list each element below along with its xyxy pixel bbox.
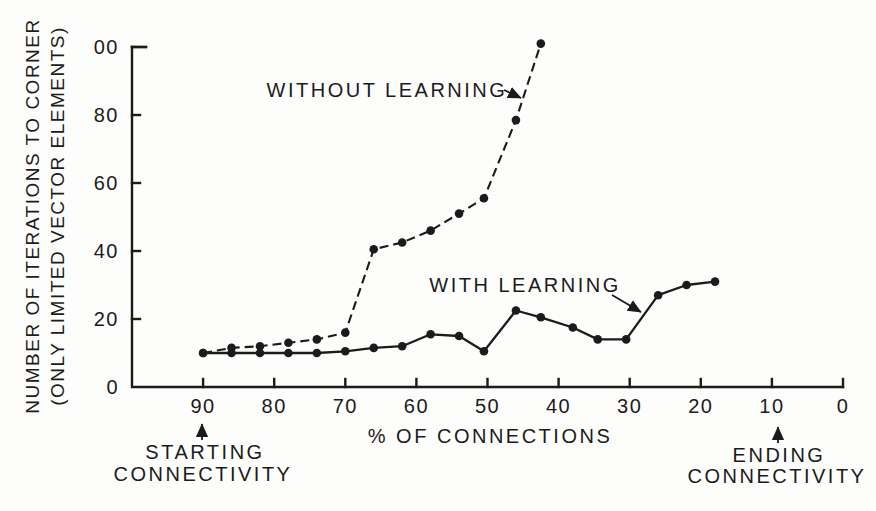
y-tick-label: 60 <box>94 172 119 194</box>
series-with-learning-point <box>480 347 489 356</box>
y-tick-label: 20 <box>94 308 119 330</box>
series-with-learning-point <box>711 277 720 286</box>
series-without-learning-point <box>426 226 435 235</box>
series-with-learning-point <box>227 349 236 358</box>
series-with-learning-point <box>537 313 546 322</box>
y-axis-title-line2: (ONLY LIMITED VECTOR ELEMENTS) <box>47 26 68 406</box>
series-with-learning-point <box>569 323 578 332</box>
x-tick-label: 40 <box>546 395 571 417</box>
starting-connectivity-line1: STARTING <box>145 441 264 463</box>
series-without-learning-point <box>455 209 464 218</box>
x-tick-label: 0 <box>837 395 850 417</box>
series-without-learning-point <box>480 194 489 203</box>
series-with-learning-point <box>512 306 521 315</box>
series-with-learning-point <box>622 335 631 344</box>
x-tick-label: 70 <box>333 395 358 417</box>
x-tick-label: 50 <box>475 395 500 417</box>
series-without-learning-point <box>537 39 546 48</box>
series-without-learning-point <box>313 335 322 344</box>
y-tick-label: 00 <box>94 36 119 58</box>
series-without-learning-point <box>369 245 378 254</box>
x-tick-label: 80 <box>262 395 287 417</box>
y-axis-title-line1: NUMBER OF ITERATIONS TO CORNER <box>22 18 43 413</box>
series-with-learning-point <box>426 330 435 339</box>
series-with-learning-point <box>682 281 691 290</box>
series-without-learning-point <box>512 116 521 125</box>
series-with-learning-point <box>313 349 322 358</box>
series-without-learning-point <box>398 238 407 247</box>
without-learning-label: WITHOUT LEARNING <box>267 79 508 101</box>
series-without-learning-point <box>341 328 350 337</box>
series-with-learning-point <box>199 349 208 358</box>
y-tick-label: 80 <box>94 104 119 126</box>
x-tick-label: 10 <box>759 395 784 417</box>
series-with-learning-point <box>256 349 265 358</box>
x-tick-label: 90 <box>190 395 215 417</box>
series-with-learning-point <box>398 342 407 351</box>
x-tick-label: 60 <box>404 395 429 417</box>
ending-connectivity-line1: ENDING <box>733 444 826 466</box>
starting-connectivity-line2: CONNECTIVITY <box>114 463 293 485</box>
series-without-learning-point <box>284 339 293 348</box>
series-with-learning-point <box>654 291 663 300</box>
x-tick-label: 20 <box>688 395 713 417</box>
series-with-learning-point <box>455 332 464 341</box>
y-tick-label: 40 <box>94 240 119 262</box>
series-with-learning-point <box>593 335 602 344</box>
series-with-learning-point <box>369 344 378 353</box>
with-learning-label: WITH LEARNING <box>429 274 620 296</box>
ending-connectivity-line2: CONNECTIVITY <box>688 465 867 487</box>
x-tick-label: 30 <box>617 395 642 417</box>
series-with-learning-point <box>284 349 293 358</box>
x-axis-title: % OF CONNECTIONS <box>368 425 612 447</box>
paper-chart-figure: 908070605040302010002040608000 NUMBER OF… <box>0 0 876 511</box>
y-tick-label: 0 <box>106 376 119 398</box>
with-learning-leader-arrow <box>612 295 641 312</box>
series-with-learning-point <box>341 347 350 356</box>
line-chart: 908070605040302010002040608000 NUMBER OF… <box>0 0 876 511</box>
